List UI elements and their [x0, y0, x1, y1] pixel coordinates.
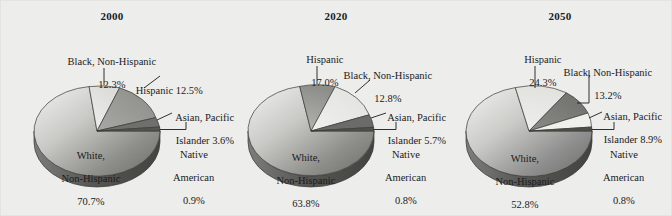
label-white-non-hispanic-2050: White, Non-Hispanic 52.8%: [461, 141, 573, 216]
chart-panel-2000: 2000: [0, 0, 224, 216]
chart-panel-2050: 2050: [448, 0, 672, 216]
population-pie-chart-figure: 2000: [0, 0, 672, 216]
label-native-american-2000: Native American 0.9%: [150, 137, 222, 216]
label-native-american-2050: Native American 0.8%: [580, 137, 652, 216]
label-white-non-hispanic-2020: White, Non-Hispanic 63.8%: [242, 140, 354, 216]
chart-panel-2020: 2020: [224, 0, 448, 216]
label-white-non-hispanic-2000: White, Non-Hispanic 70.7%: [27, 138, 139, 216]
label-native-american-2020: Native American 0.8%: [362, 137, 434, 216]
